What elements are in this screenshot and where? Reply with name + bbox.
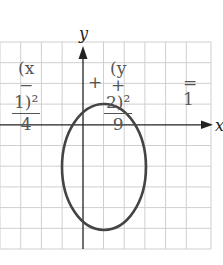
equation-numerator-2: (y + 2)² <box>104 60 132 114</box>
equation-plus: + <box>88 74 102 91</box>
equation-denominator-2: 9 <box>104 114 132 133</box>
x-axis-label: x <box>215 116 223 135</box>
equation-fraction-2: (y + 2)² 9 <box>104 60 132 133</box>
equation-numerator-1: (x − 1)² <box>12 60 40 114</box>
y-axis-arrow-icon <box>79 46 88 59</box>
equation-denominator-1: 4 <box>12 114 40 133</box>
equation-rhs: = 1 <box>183 74 197 108</box>
y-axis-label: y <box>79 24 88 43</box>
equation-fraction-1: (x − 1)² 4 <box>12 60 40 133</box>
